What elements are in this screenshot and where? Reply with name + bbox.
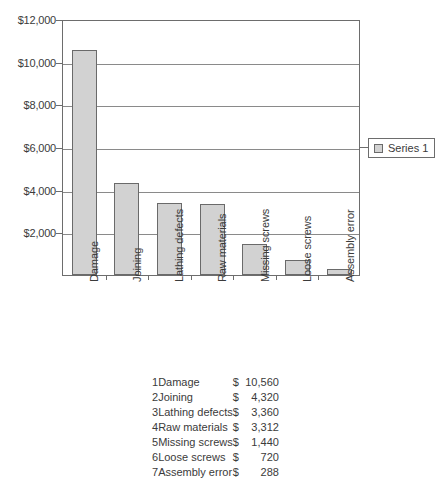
row-category-name: Damage <box>158 376 233 391</box>
y-tick-label: $12,000 <box>0 14 56 26</box>
row-currency-symbol: $ <box>233 391 239 406</box>
row-currency-symbol: $ <box>233 421 239 436</box>
legend-swatch-icon <box>374 144 383 153</box>
x-tick-mark <box>148 275 149 280</box>
x-tick-mark <box>276 275 277 280</box>
row-amount: 3,360 <box>239 406 279 421</box>
x-category-label: Assembly error <box>344 209 356 282</box>
table-row: 6Loose screws$720 <box>152 451 279 466</box>
x-category-label: Missing screws <box>259 209 271 282</box>
x-tick-mark <box>318 275 319 280</box>
gridline <box>63 106 359 107</box>
x-tick-mark <box>106 275 107 280</box>
x-tick-mark <box>233 275 234 280</box>
row-category-name: Assembly error <box>158 466 233 481</box>
chart-legend[interactable]: Series 1 <box>368 138 435 158</box>
row-amount: 720 <box>239 451 279 466</box>
table-row: 2Joining$4,320 <box>152 391 279 406</box>
y-tick-label: $8,000 <box>0 99 56 111</box>
x-category-label: Loose screws <box>301 216 313 282</box>
table-row: 1Damage$10,560 <box>152 376 279 391</box>
x-category-label: Lathing defects <box>173 209 185 282</box>
table-row: 3Lathing defects$3,360 <box>152 406 279 421</box>
row-amount: 3,312 <box>239 421 279 436</box>
row-amount: 288 <box>239 466 279 481</box>
gridline <box>63 192 359 193</box>
plot-area <box>62 20 360 276</box>
y-tick-label: $10,000 <box>0 57 56 69</box>
row-category-name: Raw materials <box>158 421 233 436</box>
row-amount: 1,440 <box>239 436 279 451</box>
x-category-label: Damage <box>88 241 100 282</box>
row-currency-symbol: $ <box>233 406 239 421</box>
y-tick-label: $4,000 <box>0 185 56 197</box>
row-category-name: Joining <box>158 391 233 406</box>
gridline <box>63 149 359 150</box>
y-tick-label: $2,000 <box>0 227 56 239</box>
row-currency-symbol: $ <box>233 451 239 466</box>
row-category-name: Missing screws <box>158 436 233 451</box>
row-amount: 4,320 <box>239 391 279 406</box>
legend-label: Series 1 <box>388 142 428 154</box>
table-row: 5Missing screws$1,440 <box>152 436 279 451</box>
x-category-label: Joining <box>131 248 143 282</box>
table-row: 4Raw materials$3,312 <box>152 421 279 436</box>
y-tick-label: $6,000 <box>0 142 56 154</box>
table-row: 7Assembly error$288 <box>152 466 279 481</box>
row-currency-symbol: $ <box>233 376 239 391</box>
row-currency-symbol: $ <box>233 436 239 451</box>
row-currency-symbol: $ <box>233 466 239 481</box>
row-amount: 10,560 <box>239 376 279 391</box>
data-table: 1Damage$10,5602Joining$4,3203Lathing def… <box>152 376 279 481</box>
row-category-name: Loose screws <box>158 451 233 466</box>
gridline <box>63 64 359 65</box>
x-category-label: Raw materials <box>216 214 228 282</box>
row-category-name: Lathing defects <box>158 406 233 421</box>
x-tick-mark <box>191 275 192 280</box>
